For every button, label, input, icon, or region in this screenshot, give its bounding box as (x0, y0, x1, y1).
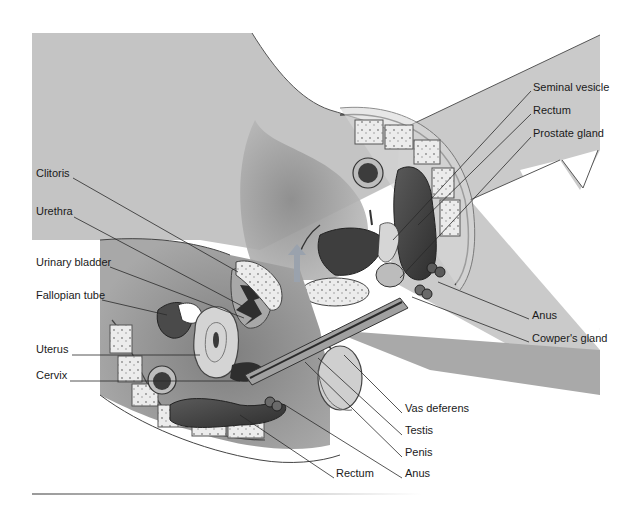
label-cervix: Cervix (36, 369, 67, 381)
label-rectum-female: Rectum (336, 467, 374, 479)
bottom-divider (32, 493, 422, 495)
label-urethra: Urethra (36, 205, 73, 217)
label-prostate-gland: Prostate gland (533, 127, 604, 139)
female-body (100, 239, 408, 470)
label-seminal-vesicle: Seminal vesicle (533, 81, 609, 93)
label-anus-female: Anus (405, 467, 430, 479)
label-rectum-male: Rectum (533, 104, 571, 116)
label-uterus: Uterus (36, 343, 68, 355)
label-urinary-bladder: Urinary bladder (36, 256, 111, 268)
anatomy-diagram: Clitoris Urethra Urinary bladder Fallopi… (0, 0, 635, 513)
label-fallopian-tube: Fallopian tube (36, 289, 105, 301)
label-vas-deferens: Vas deferens (405, 402, 469, 414)
label-cowpers-gland: Cowper's gland (532, 332, 607, 344)
label-penis: Penis (405, 446, 433, 458)
label-anus-male: Anus (532, 309, 557, 321)
label-clitoris: Clitoris (36, 167, 70, 179)
label-testis: Testis (405, 424, 433, 436)
